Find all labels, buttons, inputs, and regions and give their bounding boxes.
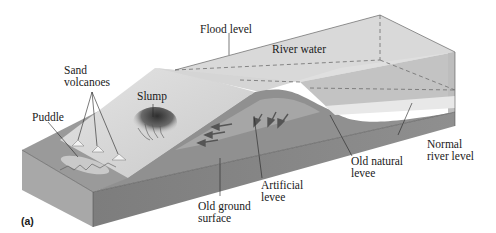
label-flood-level: Flood level	[200, 23, 252, 35]
label-artificial-levee: Artificial levee	[261, 179, 303, 203]
panel-label: (a)	[21, 215, 34, 227]
label-old-natural-levee: Old natural levee	[351, 155, 403, 179]
slump-scar	[133, 107, 177, 137]
label-puddle: Puddle	[32, 111, 64, 123]
label-slump: Slump	[137, 90, 167, 102]
label-river-water: River water	[272, 43, 326, 55]
label-old-ground-surface: Old ground surface	[198, 200, 251, 224]
label-sand-volcanoes: Sand volcanoes	[64, 64, 110, 88]
label-normal-river-level: Normal river level	[427, 138, 474, 162]
